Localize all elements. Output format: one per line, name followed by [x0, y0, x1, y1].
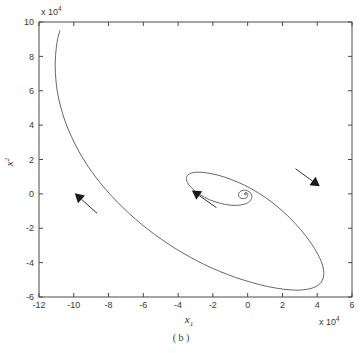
x-tick-label: -10: [67, 300, 80, 310]
y-tick-label: -4: [26, 258, 34, 268]
y-tick-label: 0: [29, 189, 34, 199]
x-tick-label: -8: [105, 300, 113, 310]
x-tick-label: -4: [174, 300, 182, 310]
phase-portrait-figure: -12-10-8-6-4-20246 -6-4-20246810 x 104 x…: [0, 0, 363, 353]
y-tick-label: 2: [29, 155, 34, 165]
y-tick-label: -6: [26, 292, 34, 302]
y-tick-label: 8: [29, 52, 34, 62]
y-tick-label: -2: [26, 223, 34, 233]
y-tick-label: 4: [29, 120, 34, 130]
figure-caption: ( b ): [173, 332, 190, 344]
x-tick-label: -2: [209, 300, 217, 310]
x-tick-label: 4: [315, 300, 320, 310]
x-tick-label: -12: [32, 300, 45, 310]
x-tick-label: 0: [245, 300, 250, 310]
y-tick-label: 10: [24, 17, 34, 27]
x-tick-label: 6: [349, 300, 354, 310]
y-tick-label: 6: [29, 86, 34, 96]
x-tick-label: 2: [280, 300, 285, 310]
x-tick-label: -6: [139, 300, 147, 310]
